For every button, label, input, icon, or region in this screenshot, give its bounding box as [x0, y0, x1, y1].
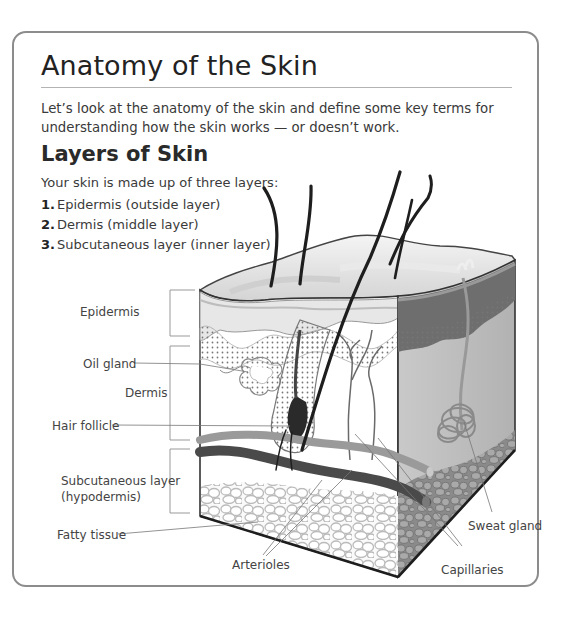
fatty-tissue [201, 482, 398, 577]
label-fatty-tissue: Fatty tissue [57, 528, 126, 542]
label-capillaries: Capillaries [441, 563, 504, 577]
label-oil-gland: Oil gland [83, 357, 136, 371]
label-hypodermis: (hypodermis) [61, 490, 141, 504]
label-epidermis: Epidermis [80, 305, 140, 319]
label-hair-follicle: Hair follicle [52, 419, 119, 433]
label-subcutaneous: Subcutaneous layer [61, 474, 180, 488]
label-dermis: Dermis [125, 386, 168, 400]
label-arterioles: Arterioles [232, 558, 290, 572]
label-sweat-gland: Sweat gland [468, 519, 542, 533]
